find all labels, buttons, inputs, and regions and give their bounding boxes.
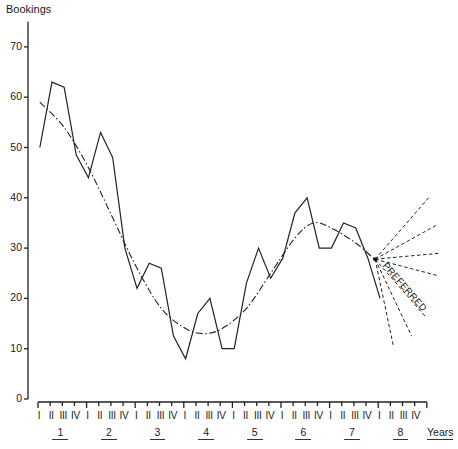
axes (24, 22, 427, 408)
forecast-line (375, 225, 436, 259)
actual-bookings-line (40, 82, 380, 359)
line-chart (0, 0, 458, 449)
trend-line (40, 102, 375, 333)
forecast-line (375, 253, 441, 259)
forecast-line (375, 198, 428, 259)
forecast-origin-point (373, 257, 377, 261)
